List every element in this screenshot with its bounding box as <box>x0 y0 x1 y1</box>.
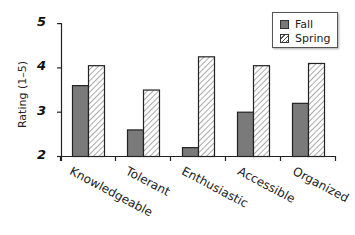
y-tick-label-5: 5 <box>28 14 46 29</box>
bars-group <box>73 57 325 157</box>
legend-item-spring: Spring <box>280 32 331 44</box>
bar-spring-knowledgeable <box>89 66 105 157</box>
y-axis-label: Rating (1–5) <box>16 55 29 135</box>
bar-spring-tolerant <box>144 90 160 156</box>
bar-spring-organized <box>309 63 325 156</box>
bar-fall-tolerant <box>128 130 144 157</box>
legend: Fall Spring <box>272 12 338 48</box>
bar-spring-accessible <box>254 66 270 157</box>
bar-chart: Rating (1–5) 5 4 3 2 Knowledgeable Toler… <box>0 0 355 235</box>
legend-label-fall: Fall <box>295 18 313 31</box>
bar-fall-accessible <box>238 112 254 156</box>
bar-fall-enthusiastic <box>183 148 199 157</box>
fall-swatch-icon <box>280 20 289 29</box>
bar-spring-enthusiastic <box>199 57 215 157</box>
y-tick-label-4: 4 <box>28 58 46 73</box>
legend-label-spring: Spring <box>295 32 331 45</box>
y-tick-label-2: 2 <box>28 147 46 162</box>
legend-item-fall: Fall <box>280 18 313 30</box>
bar-fall-knowledgeable <box>73 86 89 157</box>
bar-fall-organized <box>293 103 309 156</box>
spring-swatch-icon <box>280 34 289 43</box>
y-tick-label-3: 3 <box>28 103 46 118</box>
